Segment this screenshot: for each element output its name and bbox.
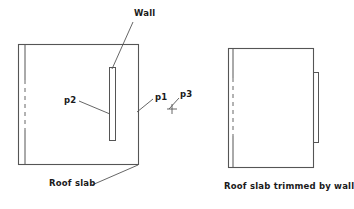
p1-label: p1 bbox=[155, 93, 167, 102]
p1-leader-line bbox=[137, 99, 153, 112]
right-diagram-group bbox=[229, 49, 319, 168]
p3-label: p3 bbox=[180, 90, 192, 99]
p2-leader-line bbox=[79, 101, 110, 114]
right-diagram-caption: Roof slab trimmed by wall bbox=[224, 182, 354, 191]
left-diagram-caption: Roof slab bbox=[49, 179, 95, 188]
p2-label: p2 bbox=[64, 96, 76, 105]
left-wall-element bbox=[110, 68, 116, 141]
p3-leader-line bbox=[169, 98, 179, 109]
p3-cross-marker bbox=[167, 104, 177, 114]
wall-label: Wall bbox=[134, 9, 155, 18]
wall-leader-line bbox=[112, 22, 133, 69]
right-slab-outline bbox=[229, 49, 314, 168]
left-slab-outline bbox=[19, 45, 139, 165]
roof-slab-leader-line bbox=[92, 165, 138, 185]
left-diagram-group bbox=[19, 22, 180, 185]
right-wall-element bbox=[314, 73, 319, 143]
